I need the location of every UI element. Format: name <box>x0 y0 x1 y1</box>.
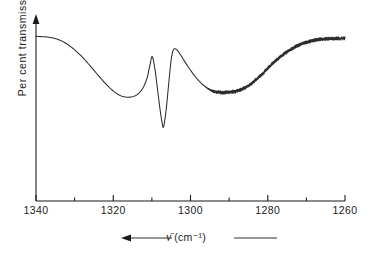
y-axis-arrow-icon <box>33 14 40 24</box>
wavenumber-symbol: ν̄ <box>166 230 171 244</box>
x-tick-label: 1280 <box>255 204 280 216</box>
wavenumber-units: (cm⁻¹) <box>174 231 206 243</box>
x-axis-title: ν̄ (cm⁻¹) <box>0 230 372 245</box>
axes <box>33 14 345 201</box>
x-tick-label: 1320 <box>101 204 126 216</box>
ir-spectrum-figure: Per cent transmission 134013201300128012… <box>0 0 372 253</box>
y-axis-title: Per cent transmission <box>16 0 28 120</box>
x-tick-label: 1300 <box>178 204 203 216</box>
spectrum-curve <box>36 36 345 127</box>
x-tick-label: 1260 <box>333 204 358 216</box>
x-axis-ticks <box>36 195 345 201</box>
x-tick-label: 1340 <box>24 204 49 216</box>
